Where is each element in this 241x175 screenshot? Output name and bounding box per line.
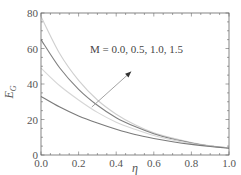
line-chart: 0.00.20.40.60.81.0 020406080 η EG M = 0.… <box>0 0 241 175</box>
svg-text:EG: EG <box>2 85 18 99</box>
parameter-annotation: M = 0.0, 0.5, 1.0, 1.5 <box>90 43 183 55</box>
y-axis-label-subscript: G <box>9 85 18 91</box>
y-tick-labels: 020406080 <box>27 7 39 161</box>
x-axis-label: η <box>132 161 138 175</box>
x-tick-label: 0.2 <box>72 157 86 169</box>
series-line-0 <box>41 17 229 148</box>
y-tick-label: 60 <box>27 43 39 55</box>
y-axis-label: EG <box>2 85 18 99</box>
data-series <box>41 17 229 149</box>
y-tick-label: 40 <box>27 78 39 90</box>
x-tick-label: 0.4 <box>109 157 123 169</box>
axis-ticks <box>41 13 229 155</box>
y-tick-label: 0 <box>33 149 39 161</box>
x-tick-label: 1.0 <box>222 157 236 169</box>
y-tick-label: 20 <box>27 114 39 126</box>
x-tick-label: 0.8 <box>185 157 199 169</box>
arrow-icon <box>92 72 131 108</box>
plot-frame <box>41 13 229 155</box>
y-tick-label: 80 <box>27 7 39 19</box>
x-tick-label: 0.6 <box>147 157 161 169</box>
series-line-3 <box>41 96 229 148</box>
